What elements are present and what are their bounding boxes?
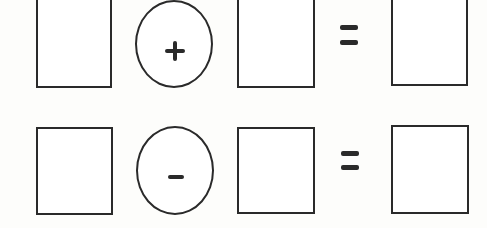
minus-icon bbox=[168, 175, 184, 179]
row1-operator-circle bbox=[135, 0, 213, 88]
row2-operator-circle bbox=[136, 126, 214, 215]
row1-result-box[interactable] bbox=[391, 0, 468, 86]
row2-operand-2-box[interactable] bbox=[237, 127, 315, 214]
row2-operand-1-box[interactable] bbox=[36, 127, 113, 215]
row1-operand-1-box[interactable] bbox=[36, 0, 112, 88]
row1-operand-2-box[interactable] bbox=[237, 0, 315, 88]
plus-icon-vertical bbox=[173, 41, 177, 61]
row2-result-box[interactable] bbox=[391, 125, 469, 214]
